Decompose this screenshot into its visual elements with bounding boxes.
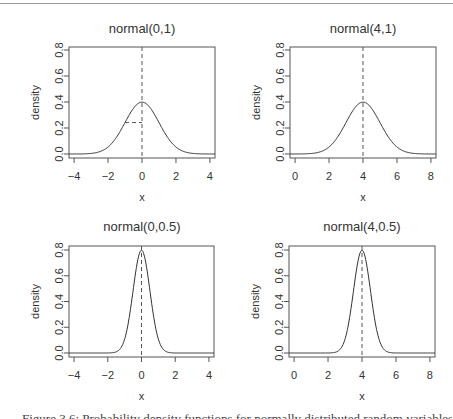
figure-caption: Figure 3.6: Probability density function… — [22, 410, 452, 419]
x-tick-label: 0 — [139, 170, 145, 182]
x-tick-label: 0 — [138, 369, 144, 381]
y-tick-label: 0.0 — [53, 345, 65, 360]
y-tick-label: 0.4 — [274, 94, 286, 109]
x-tick-label: −2 — [102, 170, 115, 182]
y-tick-label: 0.2 — [53, 320, 65, 335]
panel-normal-4-1: 0.00.20.40.60.802468xdensitynormal(4,1) — [250, 21, 436, 203]
y-tick-label: 0.6 — [53, 268, 65, 283]
x-axis-label: x — [360, 191, 366, 203]
y-tick-label: 0.2 — [273, 320, 285, 335]
x-tick-label: 4 — [359, 369, 365, 381]
x-tick-label: 8 — [427, 369, 433, 381]
panel-normal-0-1: 0.00.20.40.60.8−4−2024xdensitynormal(0,1… — [29, 21, 215, 203]
x-tick-label: 2 — [326, 170, 332, 182]
y-tick-label: 0.0 — [273, 345, 285, 360]
x-tick-label: 6 — [393, 369, 399, 381]
y-tick-label: 0.0 — [53, 146, 65, 161]
y-tick-label: 0.2 — [274, 120, 286, 135]
y-tick-label: 0.6 — [273, 268, 285, 283]
y-tick-label: 0.8 — [53, 42, 65, 57]
figure: 0.00.20.40.60.8−4−2024xdensitynormal(0,1… — [0, 0, 453, 419]
x-tick-label: 2 — [172, 369, 178, 381]
panel-title: normal(0,0.5) — [103, 219, 180, 234]
y-tick-label: 0.4 — [273, 294, 285, 309]
panel-title: normal(4,0.5) — [323, 219, 400, 234]
y-axis-label: density — [250, 85, 262, 120]
x-axis-label: x — [139, 191, 145, 203]
x-tick-label: −4 — [68, 170, 81, 182]
x-tick-label: 4 — [206, 369, 212, 381]
x-tick-label: 4 — [360, 170, 366, 182]
x-tick-label: 0 — [291, 369, 297, 381]
panel-normal-0-0.5: 0.00.20.40.60.8−4−2024xdensitynormal(0,0… — [29, 219, 214, 402]
x-tick-label: 2 — [325, 369, 331, 381]
panel-title: normal(4,1) — [330, 21, 396, 36]
x-tick-label: 2 — [173, 170, 179, 182]
x-tick-label: 4 — [207, 170, 213, 182]
y-axis-label: density — [29, 284, 41, 319]
panel-title: normal(0,1) — [109, 21, 175, 36]
y-tick-label: 0.6 — [53, 68, 65, 83]
x-tick-label: 0 — [292, 170, 298, 182]
x-tick-label: −2 — [102, 369, 115, 381]
x-tick-label: 6 — [394, 170, 400, 182]
y-tick-label: 0.0 — [274, 146, 286, 161]
x-axis-label: x — [359, 390, 365, 402]
y-tick-label: 0.6 — [274, 68, 286, 83]
y-tick-label: 0.8 — [53, 242, 65, 257]
y-axis-label: density — [249, 284, 261, 319]
x-axis-label: x — [139, 390, 145, 402]
y-axis-label: density — [29, 85, 41, 120]
x-tick-label: 8 — [428, 170, 434, 182]
y-tick-label: 0.4 — [53, 94, 65, 109]
y-tick-label: 0.8 — [274, 42, 286, 57]
panel-normal-4-0.5: 0.00.20.40.60.802468xdensitynormal(4,0.5… — [249, 219, 435, 402]
x-tick-label: −4 — [68, 369, 81, 381]
y-tick-label: 0.4 — [53, 294, 65, 309]
y-tick-label: 0.2 — [53, 120, 65, 135]
y-tick-label: 0.8 — [273, 242, 285, 257]
